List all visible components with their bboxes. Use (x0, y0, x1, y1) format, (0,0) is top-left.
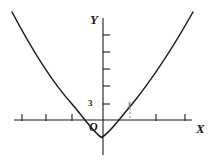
y-axis-ticks (103, 35, 110, 104)
y-tick-label-3: 3 (88, 99, 93, 108)
origin-label: O (89, 121, 98, 133)
coordinate-plot-svg (0, 0, 210, 165)
parabola-figure: Y X O 3 1 (0, 0, 210, 165)
y-axis-label: Y (90, 13, 98, 26)
x-tick-label-1: 1 (127, 101, 132, 110)
x-axis-label: X (196, 122, 205, 135)
